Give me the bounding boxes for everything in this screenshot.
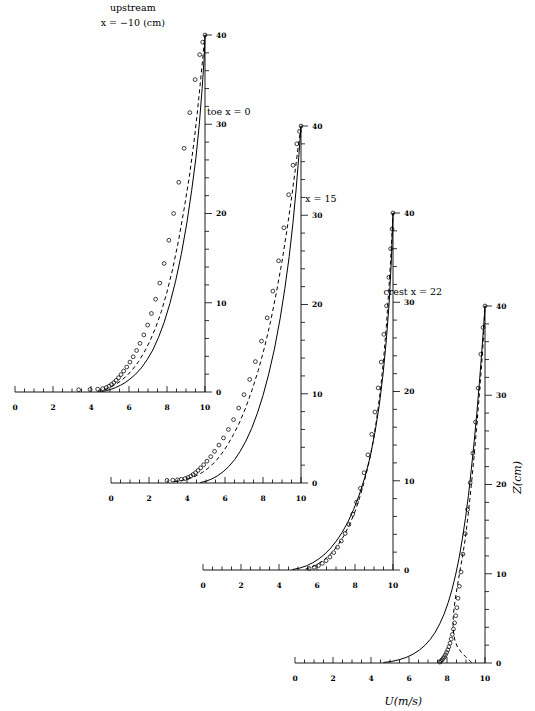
x-axis-title: U(m/s) — [384, 695, 422, 708]
data-point-marker — [366, 453, 370, 457]
x-axis-tick-label: 8 — [352, 581, 357, 590]
y-axis-tick-label: 0 — [312, 479, 317, 488]
x-axis-tick-label: 0 — [108, 494, 113, 503]
x-axis-tick-label: 8 — [444, 674, 449, 683]
solid-curve — [292, 213, 393, 570]
data-point-marker — [182, 146, 186, 150]
y-axis-title: Z(cm) — [511, 461, 524, 495]
y-axis-tick-label: 30 — [216, 120, 226, 129]
y-axis-tick-label: 0 — [496, 659, 501, 668]
panel-title-line1: x = 15 — [305, 193, 336, 204]
data-point-marker — [217, 443, 221, 447]
y-axis-tick-label: 20 — [312, 300, 322, 309]
panel-upstream: 0246810010203040upstreamx = −10 (cm) — [12, 2, 226, 412]
x-axis-tick-label: 0 — [292, 674, 297, 683]
data-point-marker — [125, 365, 129, 369]
data-point-marker — [379, 360, 383, 364]
data-point-marker — [96, 387, 100, 391]
data-point-marker — [457, 584, 461, 588]
x-axis-tick-label: 6 — [406, 674, 411, 683]
y-axis-tick-label: 0 — [216, 388, 221, 397]
data-point-marker — [450, 633, 454, 637]
panel-title-line1: crest x = 22 — [383, 286, 442, 297]
y-axis-tick-label: 0 — [404, 566, 409, 575]
data-point-marker — [459, 570, 463, 574]
data-point-marker — [167, 238, 171, 242]
solid-curve — [101, 35, 205, 392]
data-point-marker — [260, 339, 264, 343]
x-axis-tick-label: 2 — [50, 403, 55, 412]
data-point-marker — [324, 559, 328, 563]
data-point-marker — [142, 333, 146, 337]
panel-title-line1: upstream — [110, 2, 156, 13]
data-point-marker — [199, 466, 203, 470]
panel-title-line2: x = −10 (cm) — [101, 17, 165, 28]
x-axis-tick-label: 4 — [88, 403, 93, 412]
data-point-marker — [277, 259, 281, 263]
x-axis-tick-label: 10 — [296, 494, 306, 503]
y-axis-tick-label: 20 — [216, 209, 226, 218]
x-axis-tick-label: 6 — [222, 494, 227, 503]
x-axis-tick-label: 4 — [368, 674, 373, 683]
data-point-marker — [455, 606, 459, 610]
x-axis-tick-label: 6 — [314, 581, 319, 590]
data-point-marker — [131, 355, 135, 359]
data-point-marker — [265, 316, 269, 320]
y-axis-tick-label: 30 — [496, 391, 506, 400]
data-point-marker — [122, 369, 126, 373]
x-axis-tick-label: 0 — [12, 403, 17, 412]
y-axis-tick-label: 20 — [496, 480, 506, 489]
x-axis-tick-label: 10 — [200, 403, 210, 412]
data-point-marker — [154, 297, 158, 301]
data-point-marker — [202, 463, 206, 467]
x-axis-tick-label: 6 — [126, 403, 131, 412]
data-point-marker — [188, 111, 192, 115]
data-point-marker — [158, 281, 162, 285]
data-point-marker — [454, 614, 458, 618]
data-point-marker — [343, 532, 347, 536]
y-axis-tick-label: 20 — [404, 387, 414, 396]
data-point-marker — [242, 393, 246, 397]
data-point-marker — [291, 163, 295, 167]
data-point-marker — [193, 78, 197, 82]
x-axis-tick-label: 10 — [480, 674, 490, 683]
data-point-marker — [227, 428, 231, 432]
data-point-marker — [135, 349, 139, 353]
data-point-marker — [213, 449, 217, 453]
data-point-marker — [254, 360, 258, 364]
y-axis-tick-label: 40 — [216, 31, 226, 40]
data-point-marker — [320, 561, 324, 565]
data-point-marker — [248, 378, 252, 382]
data-point-marker — [271, 289, 275, 293]
panel-crest: 0246810010203040crest x = 22 — [292, 286, 506, 683]
x-axis-tick-label: 4 — [184, 494, 189, 503]
data-point-group — [77, 33, 207, 392]
y-axis-tick-label: 40 — [404, 209, 414, 218]
figure-container: 0246810010203040upstreamx = −10 (cm)0246… — [0, 0, 535, 711]
x-axis-tick-label: 0 — [200, 581, 205, 590]
data-point-marker — [376, 386, 380, 390]
data-point-marker — [373, 410, 377, 414]
data-point-marker — [177, 180, 181, 184]
y-axis-tick-label: 10 — [312, 390, 322, 399]
x-axis-tick-label: 2 — [238, 581, 243, 590]
data-point-marker — [138, 341, 142, 345]
data-point-marker — [146, 323, 150, 327]
data-point-marker — [198, 53, 202, 57]
data-point-marker — [282, 226, 286, 230]
x-axis-tick-label: 2 — [146, 494, 151, 503]
x-axis-tick-label: 4 — [276, 581, 281, 590]
panel-title-line1: toe x = 0 — [207, 106, 251, 117]
data-point-marker — [205, 459, 209, 463]
data-point-marker — [209, 455, 213, 459]
data-point-marker — [449, 637, 453, 641]
data-point-marker — [232, 418, 236, 422]
data-point-marker — [150, 312, 154, 316]
y-axis-tick-label: 30 — [404, 298, 414, 307]
data-point-marker — [77, 388, 81, 392]
y-axis-tick-label: 30 — [312, 211, 322, 220]
y-axis-tick-label: 10 — [216, 299, 226, 308]
x-axis-tick-label: 8 — [260, 494, 265, 503]
y-axis-tick-label: 10 — [496, 570, 506, 579]
panel-x15: 0246810010203040x = 15 — [200, 193, 414, 590]
